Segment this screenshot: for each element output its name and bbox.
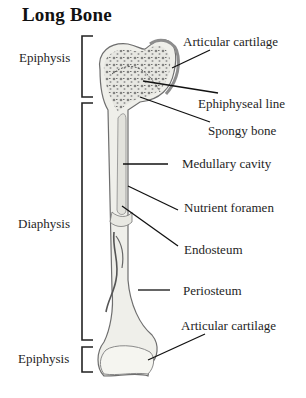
bracket-diaphysis bbox=[82, 103, 93, 340]
label-epiphysis-bottom: Epiphysis bbox=[18, 351, 69, 367]
label-spongy-bone: Spongy bone bbox=[208, 123, 276, 139]
bracket-epiphysis-bottom bbox=[82, 347, 93, 372]
label-endosteum: Endosteum bbox=[184, 242, 243, 258]
label-epiphysis-top: Epiphysis bbox=[19, 50, 70, 66]
label-medullary-cavity: Medullary cavity bbox=[182, 156, 271, 172]
label-nutrient-foramen: Nutrient foramen bbox=[184, 200, 274, 216]
bracket-epiphysis-top bbox=[82, 36, 93, 97]
leader-endosteum bbox=[122, 206, 178, 246]
bone-shape bbox=[98, 40, 178, 376]
label-periosteum: Periosteum bbox=[183, 283, 242, 299]
leader-nutrient bbox=[128, 186, 178, 210]
label-articular-cartilage-bottom: Articular cartilage bbox=[181, 318, 276, 334]
label-diaphysis: Diaphysis bbox=[18, 216, 70, 232]
label-epiphyseal-line: Ephiphyseal line bbox=[198, 96, 285, 112]
label-articular-cartilage-top: Articular cartilage bbox=[183, 34, 278, 50]
